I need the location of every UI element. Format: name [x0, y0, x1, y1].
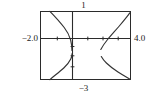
plot-background — [40, 11, 131, 80]
graph-figure: 1 −3 −2.0 4.0 — [0, 0, 167, 97]
plot-canvas — [0, 0, 167, 97]
